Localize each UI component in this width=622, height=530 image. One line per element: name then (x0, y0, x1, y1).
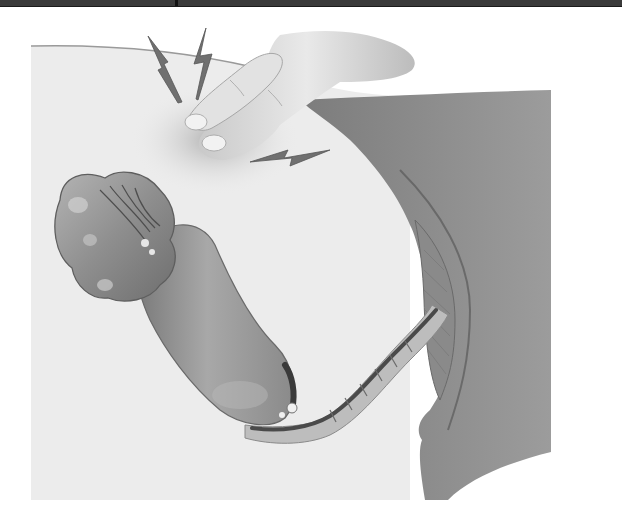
medical-illustration (0, 0, 622, 530)
